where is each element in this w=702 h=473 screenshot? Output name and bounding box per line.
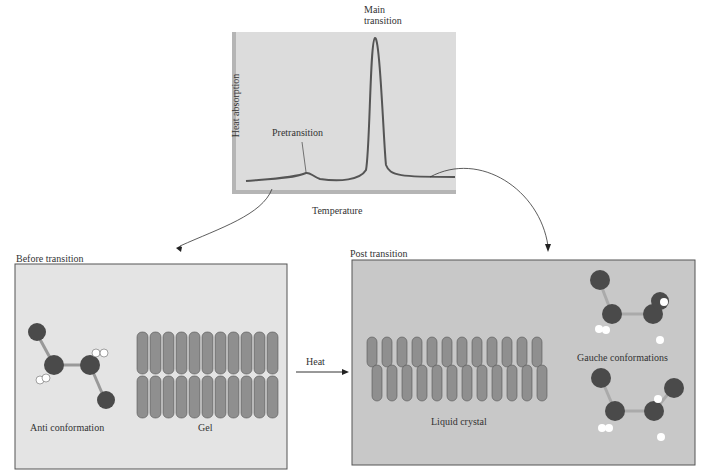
dsc-curve bbox=[246, 38, 455, 181]
gauche-conformations-label: Gauche conformations bbox=[577, 352, 668, 363]
liquid-crystal-label: Liquid crystal bbox=[431, 416, 487, 427]
heat-label: Heat bbox=[306, 356, 325, 367]
post-transition-title: Post transition bbox=[350, 248, 408, 259]
diagram-graphics bbox=[0, 0, 702, 473]
before-transition-title: Before transition bbox=[16, 253, 83, 264]
anti-conformation-label: Anti conformation bbox=[30, 422, 104, 433]
gel-label: Gel bbox=[198, 422, 212, 433]
